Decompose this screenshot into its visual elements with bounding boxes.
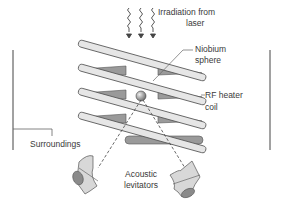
wavy-arrow-icon — [151, 8, 156, 38]
niobium-label-line1: Niobium — [195, 44, 226, 54]
wavy-arrow-icon — [139, 8, 144, 38]
surroundings-leader — [13, 129, 52, 136]
niobium-sphere — [136, 91, 146, 101]
acoustic-label-line2: levitators — [124, 180, 158, 190]
acoustic-levitator-left — [71, 156, 98, 194]
rf-heater-label-line1: RF heater — [205, 90, 243, 100]
irradiation-label-line2: laser — [186, 18, 204, 28]
rf-heater-label-line2: coil — [205, 102, 218, 112]
acoustic-levitator-right — [170, 161, 200, 200]
wavy-arrow-icon — [127, 8, 132, 38]
diagram-canvas: Irradiation from laser Niobium sphere RF… — [0, 0, 281, 207]
acoustic-label-line1: Acoustic — [125, 169, 157, 179]
irradiation-label-line1: Irradiation from — [158, 7, 215, 17]
niobium-label-line2: sphere — [195, 55, 221, 65]
surroundings-label: Surroundings — [30, 139, 81, 149]
